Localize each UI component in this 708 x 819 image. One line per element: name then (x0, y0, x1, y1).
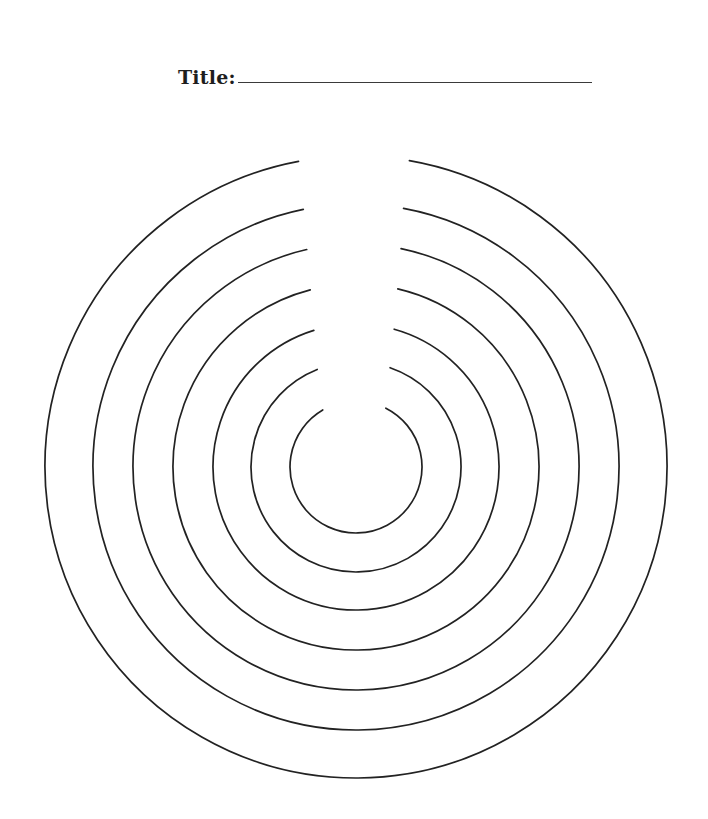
ring-6 (251, 368, 461, 572)
concentric-rings-graphic (0, 0, 708, 819)
ring-3 (133, 249, 579, 690)
ring-5 (213, 329, 499, 610)
ring-2 (93, 208, 619, 730)
ring-7 (290, 408, 422, 533)
ring-4 (173, 289, 539, 650)
ring-1 (45, 161, 667, 778)
ring-group (45, 161, 667, 778)
